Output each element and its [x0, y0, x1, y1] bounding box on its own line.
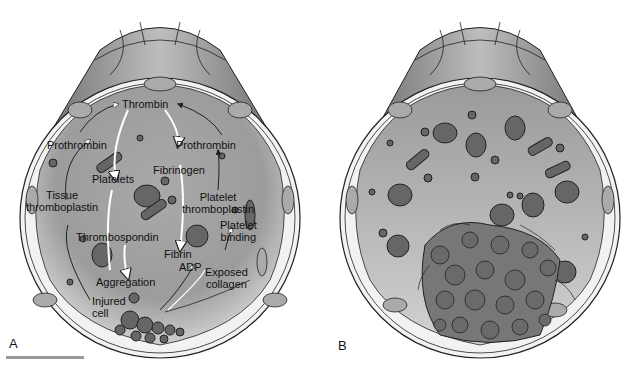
panel-label-a: A — [9, 336, 18, 351]
label-platelet-thromboplastin: Platelet thromboplastin — [182, 191, 254, 215]
label-platelet: Platelet — [220, 219, 257, 231]
label-platelet: Platelet — [182, 191, 254, 203]
label-fibrinogen: Fibrinogen — [153, 164, 205, 176]
label-thromboplastin: thromboplastin — [182, 203, 254, 215]
label-prothrombin-left: Prothrombin — [47, 139, 107, 151]
label-fibrin: Fibrin — [164, 248, 192, 260]
label-binding: binding — [220, 231, 257, 243]
label-exposed: Exposed — [205, 266, 248, 278]
label-cell: cell — [92, 307, 126, 319]
label-injured: Injured — [92, 295, 126, 307]
label-tissue: Tissue — [26, 189, 98, 201]
label-adp: ADP — [179, 261, 202, 273]
scale-bar — [6, 356, 84, 359]
label-thromboplastin: thromboplastin — [26, 201, 98, 213]
label-prothrombin-right: Prothrombin — [176, 139, 236, 151]
label-collagen: collagen — [205, 278, 248, 290]
label-platelet-binding: Platelet binding — [220, 219, 257, 243]
label-platelets: Platelets — [92, 173, 134, 185]
vessel-b — [340, 22, 620, 358]
label-thrombin: Thrombin — [122, 98, 168, 110]
label-exposed-collagen: Exposed collagen — [205, 266, 248, 290]
label-aggregation: Aggregation — [96, 276, 155, 288]
panel-label-b: B — [338, 338, 347, 353]
label-thrombospondin: Thrombospondin — [76, 231, 159, 243]
label-tissue-thromboplastin: Tissue thromboplastin — [26, 189, 98, 213]
label-injured-cell: Injured cell — [92, 295, 126, 319]
